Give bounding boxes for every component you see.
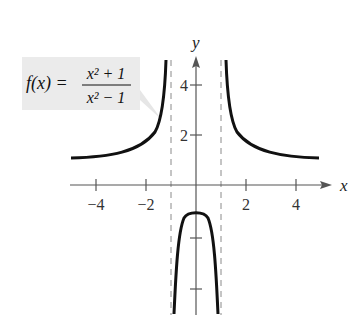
x-axis-label: x (339, 176, 348, 195)
x-tick-label: −4 (87, 196, 104, 213)
function-label-lhs: f(x) = (26, 73, 68, 94)
x-tick-label: 4 (292, 196, 300, 213)
y-tick-label: 2 (180, 127, 188, 144)
function-label-numerator: x² + 1 (86, 65, 126, 82)
x-tick-label: 2 (242, 196, 250, 213)
curve-right-branch (226, 60, 319, 158)
function-graph: −4 −2 2 4 2 4 x y f(x) = x² + 1 x² − 1 (0, 0, 360, 321)
x-tick-label: −2 (137, 196, 154, 213)
y-tick-label: 4 (180, 77, 188, 94)
y-axis-label: y (190, 33, 200, 52)
function-label-denominator: x² − 1 (86, 89, 126, 106)
x-axis (70, 179, 332, 191)
